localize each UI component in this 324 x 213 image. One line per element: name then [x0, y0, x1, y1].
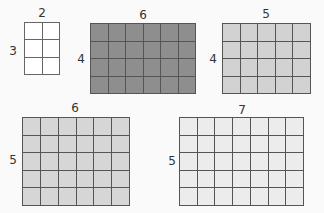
unit-square: [126, 24, 143, 41]
unit-square: [215, 153, 232, 170]
unit-square: [276, 42, 293, 59]
unit-square: [109, 77, 126, 94]
unit-square: [25, 58, 42, 74]
height-label: 5: [9, 154, 17, 166]
unit-square: [91, 77, 108, 94]
unit-square: [126, 59, 143, 76]
unit-square: [233, 171, 250, 188]
unit-square: [269, 118, 286, 135]
unit-square: [286, 118, 303, 135]
unit-square: [91, 42, 108, 59]
unit-square: [180, 153, 197, 170]
unit-square: [43, 58, 60, 74]
unit-square: [223, 77, 240, 94]
unit-square: [94, 118, 111, 135]
unit-square: [91, 59, 108, 76]
unit-square: [94, 153, 111, 170]
unit-square: [269, 153, 286, 170]
width-label: 7: [238, 104, 246, 116]
unit-square: [112, 153, 129, 170]
unit-square: [41, 188, 58, 205]
unit-square: [251, 153, 268, 170]
unit-square: [258, 42, 275, 59]
unit-square: [43, 40, 60, 56]
unit-square: [241, 77, 258, 94]
height-label: 4: [77, 53, 85, 65]
unit-square: [161, 59, 178, 76]
unit-square: [179, 77, 196, 94]
unit-square: [41, 153, 58, 170]
unit-square: [215, 188, 232, 205]
unit-square: [286, 171, 303, 188]
unit-square: [25, 40, 42, 56]
unit-square: [258, 59, 275, 76]
unit-square: [23, 118, 40, 135]
unit-square: [23, 171, 40, 188]
unit-square: [94, 171, 111, 188]
unit-square: [293, 42, 310, 59]
unit-square: [251, 136, 268, 153]
unit-square: [276, 59, 293, 76]
unit-square: [59, 171, 76, 188]
unit-square: [241, 59, 258, 76]
unit-square: [23, 188, 40, 205]
rectangle-grid-7x5: [179, 117, 304, 206]
unit-square: [223, 42, 240, 59]
unit-square: [77, 188, 94, 205]
unit-square: [180, 118, 197, 135]
unit-square: [293, 59, 310, 76]
unit-square: [180, 188, 197, 205]
unit-square: [77, 118, 94, 135]
width-label: 6: [71, 102, 79, 114]
unit-square: [59, 118, 76, 135]
unit-square: [215, 136, 232, 153]
unit-square: [286, 188, 303, 205]
unit-square: [41, 171, 58, 188]
unit-square: [109, 24, 126, 41]
unit-square: [77, 153, 94, 170]
unit-square: [180, 136, 197, 153]
unit-square: [276, 24, 293, 41]
unit-square: [161, 24, 178, 41]
unit-square: [179, 59, 196, 76]
unit-square: [91, 24, 108, 41]
unit-square: [198, 153, 215, 170]
unit-square: [144, 42, 161, 59]
unit-square: [286, 153, 303, 170]
unit-square: [241, 24, 258, 41]
unit-square: [59, 153, 76, 170]
unit-square: [293, 24, 310, 41]
unit-square: [77, 171, 94, 188]
unit-square: [25, 23, 42, 39]
unit-square: [126, 77, 143, 94]
unit-square: [215, 118, 232, 135]
unit-square: [112, 136, 129, 153]
unit-square: [179, 24, 196, 41]
unit-square: [94, 188, 111, 205]
unit-square: [269, 136, 286, 153]
unit-square: [23, 153, 40, 170]
unit-square: [109, 59, 126, 76]
unit-square: [233, 188, 250, 205]
unit-square: [94, 136, 111, 153]
unit-square: [144, 24, 161, 41]
unit-square: [269, 188, 286, 205]
unit-square: [77, 136, 94, 153]
rectangle-grid-6x4: [90, 23, 196, 94]
unit-square: [112, 171, 129, 188]
unit-square: [233, 153, 250, 170]
unit-square: [258, 77, 275, 94]
rectangle-grid-2x3: [24, 22, 60, 75]
unit-square: [144, 59, 161, 76]
width-label: 2: [38, 7, 46, 19]
unit-square: [59, 136, 76, 153]
unit-square: [241, 42, 258, 59]
unit-square: [251, 171, 268, 188]
unit-square: [198, 136, 215, 153]
rectangle-grid-6x5: [22, 117, 130, 206]
unit-square: [293, 77, 310, 94]
height-label: 4: [209, 53, 217, 65]
unit-square: [198, 188, 215, 205]
unit-square: [179, 42, 196, 59]
height-label: 5: [168, 155, 176, 167]
